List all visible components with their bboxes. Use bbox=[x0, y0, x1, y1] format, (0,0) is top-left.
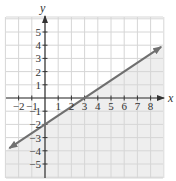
x-tick-label: 5 bbox=[108, 100, 114, 112]
x-tick-label: 1 bbox=[55, 100, 61, 112]
coordinate-plane: −2−11234567854321−1−2−3−4−5xy bbox=[0, 0, 176, 181]
y-axis-label: y bbox=[39, 1, 46, 15]
y-tick-label: 4 bbox=[36, 39, 42, 51]
x-axis-label: x bbox=[167, 91, 174, 105]
x-tick-label: 4 bbox=[95, 100, 101, 112]
y-tick-label: −5 bbox=[29, 158, 41, 170]
y-tick-label: 1 bbox=[36, 79, 42, 91]
x-tick-label: 6 bbox=[121, 100, 127, 112]
x-tick-label: 2 bbox=[69, 100, 75, 112]
y-tick-label: −2 bbox=[29, 118, 41, 130]
x-tick-label: −2 bbox=[13, 100, 25, 112]
y-tick-label: −3 bbox=[29, 132, 41, 144]
y-tick-label: 3 bbox=[36, 52, 42, 64]
x-tick-label: 8 bbox=[148, 100, 154, 112]
y-tick-label: 2 bbox=[36, 66, 42, 78]
y-tick-label: 5 bbox=[36, 26, 42, 38]
y-tick-label: −1 bbox=[29, 105, 41, 117]
y-tick-label: −4 bbox=[29, 145, 41, 157]
x-tick-label: 7 bbox=[135, 100, 141, 112]
x-tick-label: 3 bbox=[82, 100, 88, 112]
